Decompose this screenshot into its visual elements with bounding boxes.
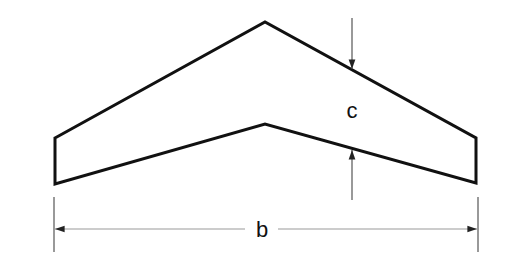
wing-planform bbox=[55, 22, 476, 184]
chord-label: c bbox=[347, 98, 358, 123]
span-label: b bbox=[256, 217, 268, 242]
wing-diagram: c b bbox=[0, 0, 508, 268]
